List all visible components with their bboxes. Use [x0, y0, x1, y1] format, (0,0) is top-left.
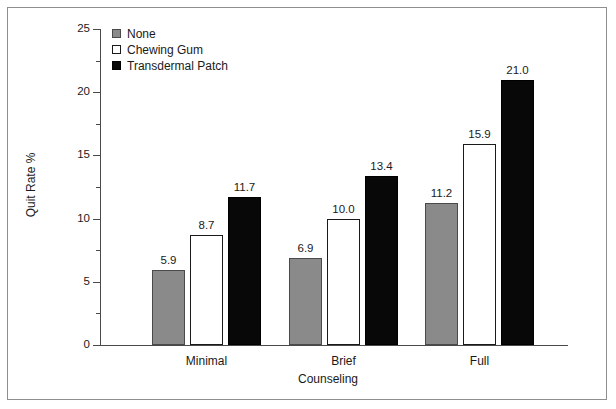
x-axis-category-label: Brief: [294, 355, 394, 367]
legend-item-none: None: [112, 26, 228, 41]
y-axis-tick-major: [93, 219, 100, 220]
bar: [152, 270, 185, 345]
bar-value-label: 11.2: [417, 188, 466, 200]
y-axis-tick-label: 25: [64, 23, 90, 35]
bar: [501, 80, 534, 345]
y-axis-tick-label: 5: [64, 276, 90, 288]
bar: [289, 258, 322, 345]
bar-value-label: 10.0: [319, 204, 368, 216]
x-axis-title: Counseling: [268, 372, 388, 386]
legend-label-none: None: [127, 28, 156, 40]
bar-value-label: 6.9: [281, 243, 330, 255]
bar-value-label: 11.7: [220, 182, 269, 194]
legend-item-chewing-gum: Chewing Gum: [112, 42, 228, 57]
x-axis-line: [100, 345, 568, 346]
bar-value-label: 21.0: [493, 65, 542, 77]
bar: [365, 176, 398, 345]
y-axis-title: Quit Rate %: [24, 130, 38, 240]
legend: None Chewing Gum Transdermal Patch: [112, 26, 228, 74]
bar-value-label: 13.4: [357, 161, 406, 173]
y-axis-line: [100, 29, 101, 346]
x-axis-category-label: Minimal: [157, 355, 257, 367]
y-axis-tick-label: 20: [64, 86, 90, 98]
y-axis-tick-major: [93, 345, 100, 346]
bar-value-label: 15.9: [455, 129, 504, 141]
bar: [228, 197, 261, 345]
y-axis-tick-major: [93, 29, 100, 30]
white-square-swatch-icon: [112, 45, 121, 54]
y-axis-tick-minor: [96, 124, 100, 125]
black-square-swatch-icon: [112, 61, 121, 70]
y-axis-tick-label: 10: [64, 213, 90, 225]
y-axis-tick-minor: [96, 250, 100, 251]
y-axis-tick-minor: [96, 61, 100, 62]
y-axis-tick-minor: [96, 313, 100, 314]
y-axis-tick-major: [93, 282, 100, 283]
y-axis-tick-label: 15: [64, 149, 90, 161]
bar: [425, 203, 458, 345]
gray-square-swatch-icon: [112, 29, 121, 38]
bar: [463, 144, 496, 345]
y-axis-tick-major: [93, 155, 100, 156]
legend-item-transdermal-patch: Transdermal Patch: [112, 58, 228, 73]
bar-chart: Quit Rate % 0510152025 5.98.711.76.910.0…: [0, 0, 616, 409]
bar: [327, 219, 360, 345]
bar-value-label: 5.9: [144, 255, 193, 267]
y-axis-tick-label: 0: [64, 339, 90, 351]
bar-value-label: 8.7: [182, 220, 231, 232]
y-axis-tick-minor: [96, 187, 100, 188]
legend-label-transdermal-patch: Transdermal Patch: [127, 60, 228, 72]
x-axis-category-label: Full: [430, 355, 530, 367]
bar: [190, 235, 223, 345]
y-axis-tick-major: [93, 92, 100, 93]
legend-label-chewing-gum: Chewing Gum: [127, 44, 203, 56]
y-axis-tick-labels: 0510152025: [60, 0, 90, 409]
